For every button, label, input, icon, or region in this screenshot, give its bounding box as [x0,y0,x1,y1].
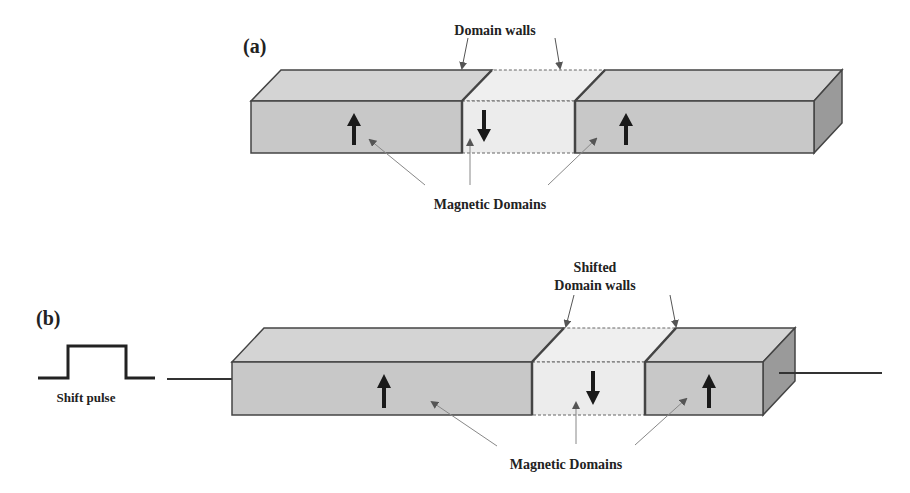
shifted-domain-walls-label: Domain walls [554,278,636,293]
middle-domain [462,101,575,153]
panel-a-label: (a) [243,35,266,58]
wall-pointer-icon [555,38,560,68]
shift-pulse-label: Shift pulse [57,390,116,405]
racetrack-diagram: (a) Domain walls Magnetic Domains (b) S [0,0,910,493]
panel-b-label: (b) [36,307,60,330]
domain-walls-label: Domain walls [454,23,536,38]
right-domain [575,101,814,153]
wall-pointer-icon [670,295,676,326]
right-domain-top [575,70,842,101]
panel-b: (b) Shifted Domain walls Shift pulse [36,260,882,472]
shifted-label-line1: Shifted [574,260,617,275]
magnetic-domains-label: Magnetic Domains [510,457,623,472]
left-domain-top [232,328,564,362]
shift-pulse-icon [38,346,155,378]
magnetic-domains-label: Magnetic Domains [434,197,547,212]
panel-a: (a) Domain walls Magnetic Domains [243,23,842,212]
left-domain [251,101,462,153]
left-domain-top [251,70,492,101]
wall-pointer-icon [462,38,468,68]
wall-pointer-icon [566,295,574,326]
middle-domain [532,362,645,415]
right-domain [645,362,763,415]
